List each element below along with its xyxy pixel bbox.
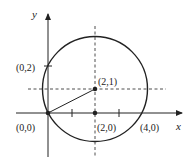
x-axis-label: x xyxy=(175,120,181,132)
y-axis-label: y xyxy=(31,8,37,20)
circle-diagram: y x (0,2) (2,1) (0,0) (2,0) (4,0) xyxy=(0,0,194,165)
point-origin xyxy=(46,111,51,116)
point-center xyxy=(93,87,98,92)
label-center: (2,1) xyxy=(98,76,117,88)
label-y-intercept: (0,2) xyxy=(16,62,35,74)
label-foot: (2,0) xyxy=(97,122,116,134)
label-x-intercept: (4,0) xyxy=(140,122,159,134)
point-foot xyxy=(93,111,98,116)
label-origin: (0,0) xyxy=(16,122,35,134)
